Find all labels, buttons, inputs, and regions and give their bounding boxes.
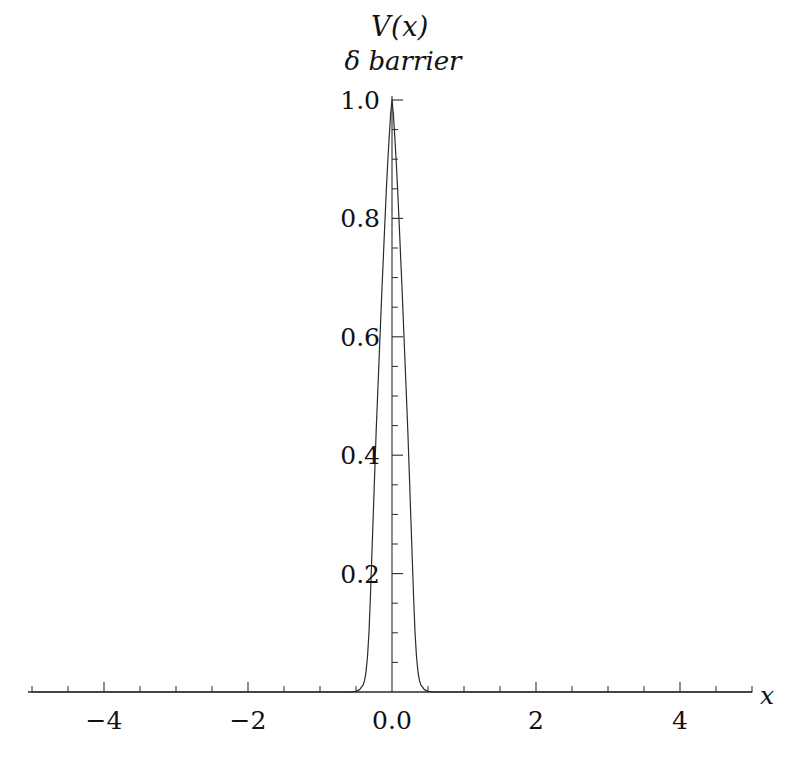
plot-svg	[0, 0, 800, 770]
x-tick-label: 2	[528, 706, 544, 735]
y-tick-label: 0.8	[332, 204, 380, 233]
y-axis-minor-ticks	[392, 130, 398, 663]
chart-canvas: V(x) δ barrier −4−20.024 0.20.40.60.81.0…	[0, 0, 800, 770]
y-tick-label: 0.2	[332, 559, 380, 588]
x-axis-label: x	[760, 681, 774, 710]
x-tick-label: 0.0	[372, 706, 412, 735]
y-tick-label: 1.0	[332, 86, 380, 115]
y-tick-label: 0.6	[332, 322, 380, 351]
y-tick-label: 0.4	[332, 441, 380, 470]
x-tick-label: −4	[86, 706, 123, 735]
x-tick-label: −2	[230, 706, 267, 735]
y-axis-major-ticks	[392, 100, 403, 574]
x-tick-label: 4	[672, 706, 688, 735]
